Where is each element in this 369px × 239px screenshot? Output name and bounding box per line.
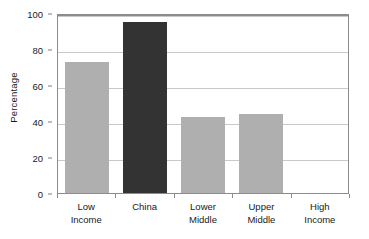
x-axis-tick-label-line: Middle [232, 214, 290, 227]
y-axis-tick-mark [48, 50, 52, 51]
bar-chart-figure: Percentage 020406080100 LowIncomeChinaLo… [0, 0, 369, 239]
x-axis-tick-label-line: Lower [174, 201, 232, 214]
bar-slot [290, 16, 348, 193]
bar-slot [174, 16, 232, 193]
x-axis-tick-mark [174, 194, 175, 198]
x-axis-tick-label: LowIncome [57, 201, 115, 226]
x-axis-tick-mark [349, 194, 350, 198]
bar [181, 117, 225, 193]
y-axis-tick-mark [48, 86, 52, 87]
y-axis-tick-label: 60 [32, 81, 43, 92]
x-axis-tick-label-line: Income [57, 214, 115, 227]
x-axis: LowIncomeChinaLowerMiddleUpperMiddleHigh… [57, 194, 349, 239]
bar-slot [232, 16, 290, 193]
x-axis-tick-mark [232, 194, 233, 198]
y-axis-title: Percentage [4, 0, 22, 195]
y-axis-tick-labels: 020406080100 [24, 0, 52, 239]
y-axis-tick-mark [48, 194, 52, 195]
x-axis-tick-mark [57, 194, 58, 198]
x-axis-tick-label-line: Middle [174, 214, 232, 227]
plot-area [57, 14, 349, 194]
y-axis-tick-label: 20 [32, 153, 43, 164]
bar-slot [58, 16, 116, 193]
y-axis-tick-label: 0 [38, 189, 43, 200]
y-axis-tick-label: 40 [32, 117, 43, 128]
x-axis-tick-label-line: High [291, 201, 349, 214]
y-axis-tick-mark [48, 158, 52, 159]
y-axis-tick-mark [48, 122, 52, 123]
bar-slot [116, 16, 174, 193]
x-axis-tick-label-line: China [115, 201, 173, 214]
y-axis-title-text: Percentage [8, 72, 19, 123]
x-axis-tick-mark [291, 194, 292, 198]
bar-series [58, 16, 348, 193]
x-axis-tick-label: LowerMiddle [174, 201, 232, 226]
bar [123, 22, 167, 193]
y-axis-tick-label: 100 [27, 9, 43, 20]
x-axis-tick-label: China [115, 201, 173, 226]
x-axis-tick-label-line: Upper [232, 201, 290, 214]
x-axis-tick-label-line: Low [57, 201, 115, 214]
bar [65, 62, 109, 193]
x-axis-tick-label: UpperMiddle [232, 201, 290, 226]
x-axis-tick-labels: LowIncomeChinaLowerMiddleUpperMiddleHigh… [57, 201, 349, 226]
x-axis-tick-label: HighIncome [291, 201, 349, 226]
y-axis-tick-label: 80 [32, 45, 43, 56]
y-axis-tick-mark [48, 14, 52, 15]
bar [239, 114, 283, 193]
x-axis-tick-label-line: Income [291, 214, 349, 227]
x-axis-tick-mark [115, 194, 116, 198]
